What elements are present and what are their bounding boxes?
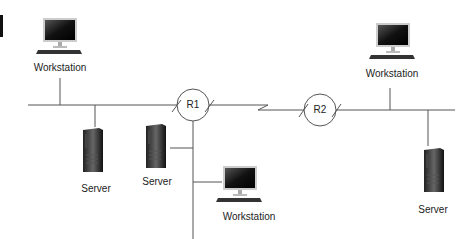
workstation-icon [369,23,415,59]
srv1-label: Server [81,183,110,194]
workstation-icon [216,166,262,202]
server-icon [146,124,166,168]
server-icon [424,148,444,192]
r2-label: R2 [314,104,327,115]
edge-bar [0,15,3,37]
srv2-label: Server [142,176,171,187]
network-diagram: Workstation Workstation Workstation Serv… [0,0,473,239]
diagram-canvas [0,0,473,239]
workstation-icon [36,18,82,54]
r1-label: R1 [187,99,200,110]
wan-serial-link [209,105,312,110]
server-icon [83,128,103,172]
ws1-label: Workstation [34,62,87,73]
srv3-label: Server [418,204,447,215]
ws2-label: Workstation [366,68,419,79]
ws3-label: Workstation [223,211,276,222]
